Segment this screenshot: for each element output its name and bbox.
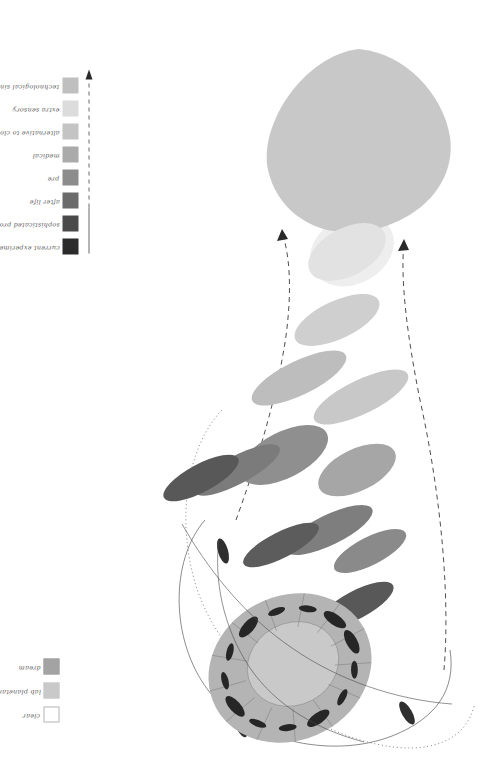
gradient-legend-label: pre <box>48 175 60 181</box>
category-legend: clearlab planetary and spheroidicsdream <box>0 649 62 724</box>
category-legend-label: lab planetary and spheroidics <box>0 688 41 694</box>
gradient-legend-item: alternative to cloning <box>0 124 79 141</box>
gradient-legend-label: sophisticated products <box>0 221 60 227</box>
gradient-legend-swatch <box>63 147 79 163</box>
gradient-legend-swatch <box>63 124 79 140</box>
dashed-arrowhead-left <box>277 229 288 241</box>
gradient-legend-label: technological singularity <box>0 83 60 89</box>
category-legend-swatch <box>44 659 60 675</box>
gradient-legend-label: current experiments <box>0 244 60 250</box>
gradient-legend-swatch <box>63 216 79 232</box>
category-legend-label: dream <box>18 664 40 670</box>
category-legend-item: dream <box>18 659 59 676</box>
gradient-legend-swatch <box>63 239 79 255</box>
dashed-funnel-right <box>403 242 446 670</box>
category-legend-swatch <box>44 683 60 699</box>
gradient-legend-item: after life <box>29 193 78 210</box>
gradient-axis-arrow <box>85 66 94 256</box>
data-ellipse <box>287 283 386 356</box>
gradient-legend-item: technological singularity <box>0 78 79 95</box>
gradient-legend-label: after life <box>29 198 59 204</box>
gradient-legend-swatch <box>63 170 79 186</box>
category-legend-swatch <box>44 707 60 723</box>
gradient-legend-item: pre <box>48 170 79 187</box>
category-legend-item: lab planetary and spheroidics <box>0 683 60 700</box>
category-swatch-row: clearlab planetary and spheroidicsdream <box>0 649 60 724</box>
gradient-legend-item: current experiments <box>0 239 79 256</box>
gradient-legend-label: extra sensory <box>12 106 59 112</box>
gradient-legend-item: extra sensory <box>12 101 78 118</box>
gradient-legend-swatch <box>63 193 79 209</box>
figure-canvas: current experimentssophisticated product… <box>0 0 479 776</box>
gradient-legend-label: alternative to cloning <box>0 129 60 135</box>
category-legend-label: clear <box>23 712 41 718</box>
category-legend-item: clear <box>23 707 60 724</box>
maturity-gradient-legend: current experimentssophisticated product… <box>0 66 100 256</box>
data-ellipse <box>215 537 232 565</box>
data-ellipse <box>396 699 418 727</box>
gradient-legend-item: sophisticated products <box>0 216 79 233</box>
gradient-legend-swatch <box>63 101 79 117</box>
gradient-swatch-row: current experimentssophisticated product… <box>0 66 79 256</box>
gradient-legend-swatch <box>63 78 79 94</box>
gradient-legend-item: medical <box>32 147 78 164</box>
dashed-arrowhead-right <box>398 239 409 251</box>
gradient-legend-label: medical <box>32 152 59 158</box>
technological-singularity-blob <box>267 49 451 232</box>
